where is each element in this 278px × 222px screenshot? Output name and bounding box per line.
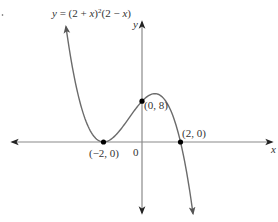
y-axis-label: y — [132, 18, 138, 30]
point-2-0 — [178, 139, 183, 144]
point-neg2-0 — [101, 139, 106, 144]
stray-dot — [2, 14, 4, 16]
x-axis-label: x — [270, 143, 276, 155]
cubic-curve — [66, 27, 193, 214]
point-label-0-8: (0, 8) — [144, 99, 168, 112]
equation-label: y = (2 + x)2(2 − x) — [51, 7, 131, 20]
graph-canvas: y = (2 + x)2(2 − x) y x 0 (−2, 0) (0, 8)… — [0, 0, 278, 222]
origin-label: 0 — [133, 146, 139, 158]
point-label-neg2-0: (−2, 0) — [89, 147, 119, 160]
point-label-2-0: (2, 0) — [182, 127, 206, 140]
